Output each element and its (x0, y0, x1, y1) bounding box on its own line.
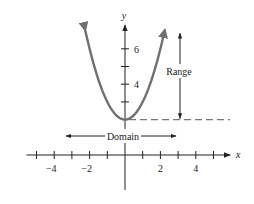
domain-label: Domain (107, 131, 139, 142)
y-tick-label: 4 (134, 79, 139, 90)
parabola-diagram: −4−224 46 x y Range Domain (0, 0, 254, 204)
x-tick-label: 4 (193, 163, 198, 174)
y-tick-label: 6 (134, 44, 139, 55)
x-tick-label: 2 (158, 163, 163, 174)
x-tick-label: −2 (81, 163, 92, 174)
y-axis-label: y (121, 10, 127, 21)
range-label: Range (166, 66, 192, 77)
x-tick-label: −4 (46, 163, 57, 174)
x-axis-label: x (235, 149, 241, 160)
